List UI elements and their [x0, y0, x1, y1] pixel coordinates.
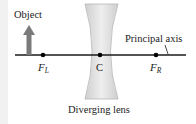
diverging-lens-diagram: Object Principal axis C FL FR Diverging …	[0, 0, 196, 124]
focal-right-label: FR	[149, 61, 162, 75]
object-label: Object	[14, 9, 42, 20]
focal-point-left	[41, 53, 46, 58]
object-arrow-icon	[23, 25, 35, 55]
principal-axis-label: Principal axis	[125, 33, 182, 44]
focal-point-right	[154, 53, 159, 58]
lens-caption: Diverging lens	[68, 104, 130, 115]
center-label: C	[96, 62, 103, 73]
focal-left-label: FL	[37, 61, 49, 75]
principal-axis-leader	[165, 45, 168, 54]
diverging-lens	[85, 4, 118, 99]
center-point	[98, 53, 103, 58]
